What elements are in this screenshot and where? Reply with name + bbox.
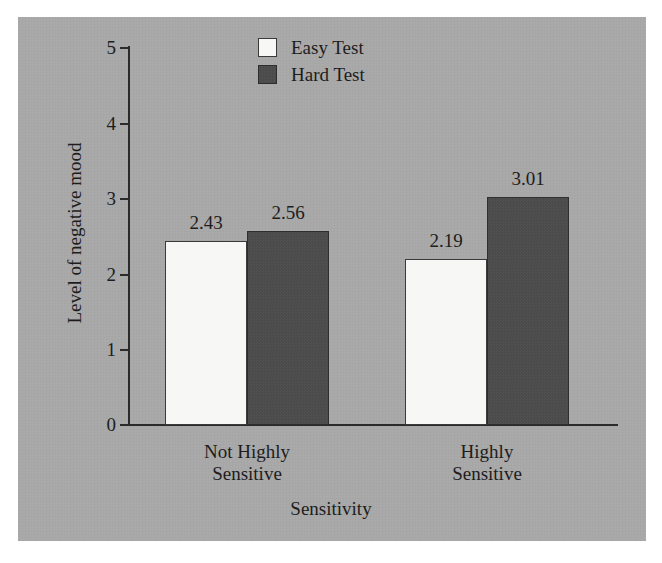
x-category-label-1-line1: Highly [387,441,587,463]
y-tick-label-4: 4 [90,114,116,133]
x-category-label-0-line1: Not Highly [147,441,347,463]
y-axis-title: Level of negative mood [64,118,86,348]
bar-value-easy-not-highly-sensitive: 2.43 [166,213,246,232]
y-tick-label-2: 2 [90,265,116,284]
x-category-label-1-line2: Sensitive [387,463,587,485]
plot-area: 5 4 3 2 1 0 Level of negative mood 2.43 … [0,0,662,563]
y-tick-mark-3 [120,198,128,200]
y-tick-mark-2 [120,274,128,276]
x-category-label-1: Highly Sensitive [387,441,587,485]
legend: Easy Test Hard Test [258,34,365,88]
x-category-label-0-line2: Sensitive [147,463,347,485]
legend-label-hard-test: Hard Test [291,64,365,86]
legend-swatch-hard-test-icon [258,65,277,84]
y-tick-label-1: 1 [90,340,116,359]
y-tick-mark-1 [120,349,128,351]
x-category-label-0: Not Highly Sensitive [147,441,347,485]
legend-item-hard-test[interactable]: Hard Test [258,61,365,88]
bar-easy-highly-sensitive[interactable] [405,259,487,425]
y-tick-mark-0 [120,424,128,426]
y-tick-label-3: 3 [90,189,116,208]
bar-value-easy-highly-sensitive: 2.19 [406,231,486,250]
legend-swatch-easy-test-icon [258,38,277,57]
y-tick-label-0: 0 [90,415,116,434]
bar-value-hard-highly-sensitive: 3.01 [488,169,568,188]
y-tick-label-5: 5 [90,38,116,57]
bar-easy-not-highly-sensitive[interactable] [165,241,247,425]
figure: 5 4 3 2 1 0 Level of negative mood 2.43 … [0,0,662,563]
y-tick-mark-5 [120,47,128,49]
bar-hard-not-highly-sensitive[interactable] [247,231,329,425]
y-tick-mark-4 [120,123,128,125]
bar-hard-highly-sensitive[interactable] [487,197,569,425]
legend-label-easy-test: Easy Test [291,37,364,59]
legend-item-easy-test[interactable]: Easy Test [258,34,365,61]
x-axis-title: Sensitivity [231,498,431,520]
bar-value-hard-not-highly-sensitive: 2.56 [248,203,328,222]
y-axis-line [128,46,130,426]
